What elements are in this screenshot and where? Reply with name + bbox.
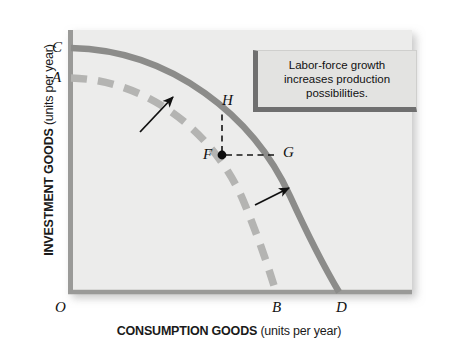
callout-line-2: increases production	[284, 72, 390, 86]
y-axis-title-bold: INVESTMENT GOODS	[42, 128, 56, 255]
x-axis-title-light: (units per year)	[260, 324, 341, 338]
callout-line-1: Labor-force growth	[284, 58, 390, 72]
label-o: O	[55, 300, 66, 315]
x-axis-title-bold: CONSUMPTION GOODS	[117, 324, 257, 338]
label-f: F	[203, 147, 212, 162]
point-f-dot	[218, 151, 227, 160]
callout-box: Labor-force growth increases production …	[253, 50, 417, 112]
y-axis-title: INVESTMENT GOODS (units per year)	[42, 25, 56, 275]
callout-text: Labor-force growth increases production …	[280, 58, 394, 100]
label-h: H	[222, 93, 233, 108]
x-axis-title: CONSUMPTION GOODS (units per year)	[0, 324, 458, 338]
label-d: D	[336, 300, 347, 315]
label-g: G	[283, 145, 294, 160]
callout-line-3: possibilities.	[284, 86, 390, 100]
ppf-figure: Labor-force growth increases production …	[0, 0, 458, 348]
label-b: B	[272, 300, 281, 315]
label-c: C	[52, 40, 62, 55]
label-a: A	[52, 70, 61, 85]
